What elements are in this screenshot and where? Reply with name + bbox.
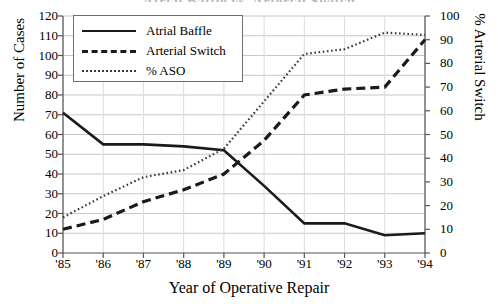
legend-swatch-dotted-line-icon (80, 64, 138, 78)
chart-legend: Atrial Baffle Arterial Switch % ASO (73, 15, 243, 82)
legend-label: % ASO (146, 63, 185, 79)
chart-figure: Atrial Baffle vs. Arterial Switch Number… (0, 0, 498, 308)
legend-item-atrial-baffle: Atrial Baffle (80, 21, 236, 41)
legend-item-percent-aso: % ASO (80, 61, 236, 81)
legend-swatch-solid-line-icon (80, 24, 138, 38)
legend-label: Arterial Switch (146, 43, 226, 59)
legend-item-arterial-switch: Arterial Switch (80, 41, 236, 61)
legend-swatch-dashed-line-icon (80, 44, 138, 58)
legend-label: Atrial Baffle (146, 23, 212, 39)
